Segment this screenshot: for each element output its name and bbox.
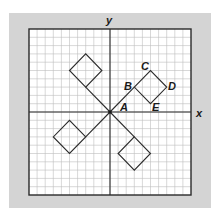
point-label-e: E: [152, 101, 160, 113]
point-label-d: D: [168, 80, 176, 92]
y-axis-label: y: [105, 14, 113, 26]
point-label-c: C: [141, 60, 150, 72]
x-axis-label: x: [195, 107, 203, 119]
coordinate-grid-diagram: y x A B C D E: [0, 0, 219, 211]
point-label-a: A: [119, 101, 128, 113]
origin-point: [108, 110, 112, 114]
point-label-b: B: [124, 80, 132, 92]
